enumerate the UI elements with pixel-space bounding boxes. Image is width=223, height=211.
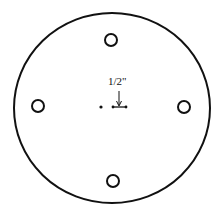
hole-bottom — [107, 175, 119, 187]
hole-left — [32, 100, 44, 112]
plate-diagram: 1/2" — [0, 0, 223, 211]
hole-right — [178, 101, 190, 113]
dimension-label: 1/2" — [108, 75, 127, 87]
hole-top — [105, 34, 117, 46]
center-dot — [99, 105, 102, 108]
dimension-marker — [112, 91, 128, 108]
